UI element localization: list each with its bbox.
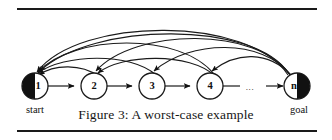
back-arc-4-to-1 — [38, 43, 214, 74]
back-arc-n-to-1 — [37, 30, 288, 75]
back-arc-n-to-4 — [212, 57, 292, 76]
back-arc-3-to-1 — [38, 58, 156, 75]
backward-arc-group — [37, 30, 292, 76]
node-1[interactable]: 1 — [22, 73, 48, 99]
ellipsis-label: ... — [246, 82, 255, 92]
node-3-label: 3 — [149, 80, 154, 91]
node-3[interactable]: 3 — [139, 73, 165, 99]
back-arc-n-to-3 — [154, 47, 291, 75]
node-4-label: 4 — [207, 80, 213, 91]
node-n-label: n — [291, 80, 297, 91]
node-2-label: 2 — [91, 80, 96, 91]
node-n[interactable]: n — [284, 73, 310, 99]
node-4[interactable]: 4 — [197, 73, 223, 99]
node-2[interactable]: 2 — [81, 73, 107, 99]
figure-caption: Figure 3: A worst-case example — [0, 107, 332, 123]
node-1-label: 1 — [35, 80, 40, 91]
goal-half-disc-icon — [297, 73, 310, 99]
figure-container: 1 2 3 4 n ... start goal Figure — [0, 0, 332, 140]
start-half-disc-icon — [22, 73, 35, 99]
